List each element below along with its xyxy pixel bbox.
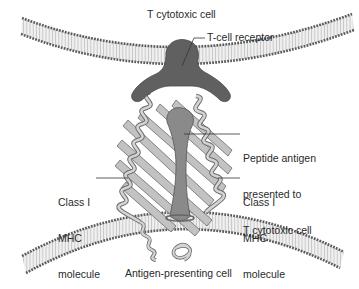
label-t-cell-receptor: T-cell receptor — [207, 31, 274, 43]
label-class1-mhc-left: Class I MHC molecule — [58, 172, 100, 289]
label-antigen-presenting-cell: Antigen-presenting cell — [125, 267, 232, 279]
label-class1-mhc-right-line-1: Class I — [243, 196, 285, 208]
label-t-cytotoxic-cell: T cytotoxic cell — [147, 8, 216, 20]
label-class1-mhc-right-line-2: MHC — [243, 232, 285, 244]
label-class1-mhc-right: Class I MHC molecule — [243, 172, 285, 289]
label-class1-mhc-left-line-2: MHC — [58, 232, 100, 244]
label-class1-mhc-left-line-3: molecule — [58, 268, 100, 280]
label-class1-mhc-left-line-1: Class I — [58, 196, 100, 208]
label-class1-mhc-right-line-3: molecule — [243, 268, 285, 280]
label-peptide-antigen-line-1: Peptide antigen — [243, 152, 316, 164]
